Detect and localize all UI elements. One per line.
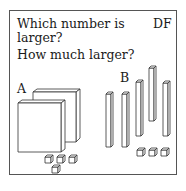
- unit-cube-icon: [69, 155, 77, 163]
- tens-rod-icon: [122, 92, 129, 147]
- tens-rod-icon: [149, 66, 156, 121]
- base-ten-blocks-diagram: [0, 0, 186, 191]
- unit-cube-icon: [45, 155, 53, 163]
- unit-cube-icon: [149, 148, 157, 156]
- tens-rod-icon: [163, 81, 170, 136]
- unit-cube-icon: [161, 148, 169, 156]
- tens-rod-icon: [136, 80, 143, 136]
- unit-cube-icon: [57, 155, 65, 163]
- hundreds-flat-icon: [18, 100, 65, 152]
- unit-cube-icon: [137, 148, 145, 156]
- unit-cube-icon: [52, 165, 60, 173]
- tens-rod-icon: [106, 92, 113, 147]
